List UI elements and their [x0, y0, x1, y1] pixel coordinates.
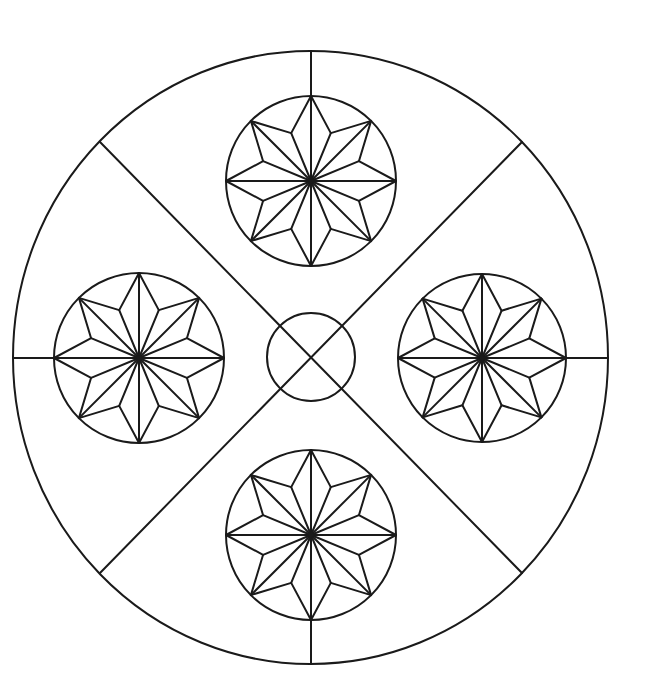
star-hub [480, 356, 485, 361]
mandala-drawing [0, 0, 647, 698]
star-medallion-left [54, 273, 224, 443]
star-hub [309, 533, 314, 538]
star-medallion-right [398, 274, 566, 442]
mandala-coloring-page [0, 0, 647, 698]
star-medallion-bottom [226, 450, 396, 620]
star-hub [309, 179, 314, 184]
star-medallion-top [226, 96, 396, 266]
star-hub [137, 356, 142, 361]
